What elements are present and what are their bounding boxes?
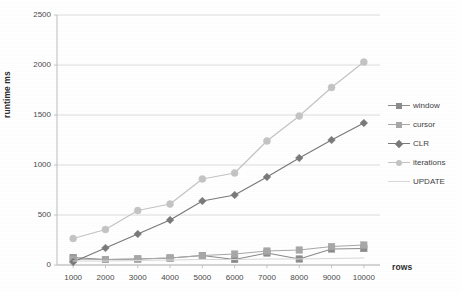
data-point-marker [328, 243, 334, 249]
legend-key-icon [388, 177, 410, 186]
legend-label: cursor [410, 120, 435, 129]
legend-key-icon [388, 101, 410, 110]
chart-legend: windowcursorCLRiterationsUPDATE [388, 96, 460, 191]
legend-key-icon [388, 139, 410, 148]
data-point-marker [102, 256, 108, 262]
legend-key-icon [388, 158, 410, 167]
legend-item-window[interactable]: window [388, 96, 460, 115]
data-point-marker [328, 84, 335, 91]
data-point-marker [70, 235, 77, 242]
data-point-marker [231, 251, 237, 257]
data-point-marker [361, 242, 367, 248]
data-point-marker [135, 256, 141, 262]
legend-item-iterations[interactable]: iterations [388, 153, 460, 172]
legend-key-icon [388, 120, 410, 129]
runtime-vs-rows-line-chart: runtime ms rows 05001000150020002500 100… [0, 0, 461, 292]
data-point-marker [167, 201, 174, 208]
legend-label: CLR [410, 139, 429, 148]
data-point-marker [199, 252, 205, 258]
data-point-marker [199, 176, 206, 183]
data-point-marker [296, 247, 302, 253]
data-point-marker [264, 248, 270, 254]
legend-label: iterations [410, 158, 445, 167]
legend-label: UPDATE [410, 177, 445, 186]
data-point-marker [296, 113, 303, 120]
data-point-marker [360, 59, 367, 66]
legend-item-cursor[interactable]: cursor [388, 115, 460, 134]
data-point-marker [102, 226, 109, 233]
data-point-marker [263, 138, 270, 145]
legend-label: window [410, 101, 440, 110]
data-point-marker [231, 170, 238, 177]
data-point-marker [134, 207, 141, 214]
legend-item-clr[interactable]: CLR [388, 134, 460, 153]
legend-item-update[interactable]: UPDATE [388, 172, 460, 191]
